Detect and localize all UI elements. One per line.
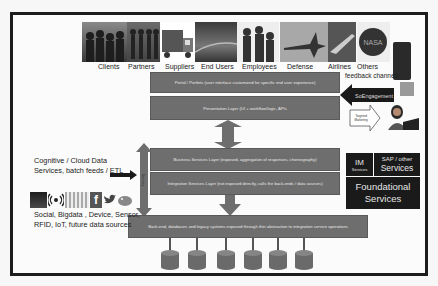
presentation-layer-label: Presentation Layer (UI + workflow/logic,…	[203, 106, 287, 111]
stakeholder-label-defense: Defense	[287, 63, 313, 70]
security-side-arrow-icon: Security	[136, 143, 152, 217]
im-services-title: IM	[355, 158, 364, 167]
portal-layer: Portal / Portlets (user interface custom…	[150, 72, 340, 93]
stakeholder-label-airlines: Airlines	[328, 63, 351, 70]
clients-photo	[82, 22, 127, 62]
others-photo: NASA	[357, 22, 390, 62]
twitter-icon	[103, 192, 116, 208]
employees-photo	[237, 22, 279, 62]
facebook-icon: f	[90, 192, 102, 208]
svg-text:SoEngagement: SoEngagement	[355, 93, 393, 99]
foundational-services-line2: Services	[365, 193, 401, 205]
database-icon	[188, 250, 206, 270]
partners-photo	[127, 22, 160, 62]
stakeholder-label-suppliers: Suppliers	[165, 63, 194, 70]
soengagement-thumb	[400, 82, 414, 96]
suppliers-photo	[161, 22, 195, 62]
sap-services-line2: Services	[381, 163, 414, 173]
user-with-laptop-icon	[385, 102, 421, 132]
database-icon	[269, 250, 287, 270]
stakeholder-label-others: Others	[357, 63, 378, 70]
im-services-box: IM Services	[346, 153, 373, 176]
double-arrow-icon	[213, 120, 243, 149]
sap-services-box: SAP / other Services	[374, 153, 420, 176]
airlines-photo	[328, 22, 356, 62]
targeted-marketing-arrow: Targeted Marketing	[349, 104, 381, 132]
stakeholder-label-employees: Employees	[242, 63, 277, 70]
database-icon	[217, 250, 235, 270]
backend-layer: Back-end, databases and legacy systems e…	[128, 215, 368, 238]
stakeholder-label-end-users: End Users	[201, 63, 234, 70]
right-arrow-icon	[110, 170, 138, 180]
portal-layer-label: Portal / Portlets (user interface custom…	[175, 80, 316, 85]
presentation-layer: Presentation Layer (UI + workflow/logic,…	[150, 96, 340, 120]
wireless-sensor-icon	[48, 192, 64, 208]
foundational-services-line1: Foundational	[356, 181, 411, 193]
svg-text:Marketing: Marketing	[354, 118, 368, 122]
stakeholder-label-partners: Partners	[128, 63, 154, 70]
foundational-services-box: Foundational Services	[346, 177, 420, 209]
bigdata-chart-icon	[30, 192, 47, 208]
svg-text:NASA: NASA	[363, 39, 382, 46]
hadoop-elephant-icon	[117, 192, 133, 208]
integration-services-layer-label: Integration Services Layer (not exposed …	[167, 181, 322, 186]
integration-services-layer: Integration Services Layer (not exposed …	[150, 172, 340, 195]
end-users-photo	[195, 22, 237, 62]
defense-photo	[280, 22, 328, 62]
database-icon	[295, 250, 313, 270]
feedback-channels-label: feedback channels	[345, 72, 399, 79]
sap-services-line1: SAP / other	[382, 156, 413, 163]
down-arrow-icon	[218, 195, 242, 216]
database-icon	[161, 250, 179, 270]
backend-layer-label: Back-end, databases and legacy systems e…	[148, 224, 348, 229]
database-icon	[244, 250, 262, 270]
data-sources-text: Social, Bigdata , Device, Sensor, RFID, …	[34, 210, 140, 230]
business-services-layer: Business Services Layer (exposed, aggreg…	[150, 148, 340, 171]
business-services-layer-label: Business Services Layer (exposed, aggreg…	[173, 157, 316, 162]
map-visualization-icon	[65, 192, 89, 208]
svg-text:Security: Security	[141, 174, 145, 187]
im-services-subtitle: Services	[352, 167, 367, 172]
stakeholder-label-clients: Clients	[98, 63, 119, 70]
